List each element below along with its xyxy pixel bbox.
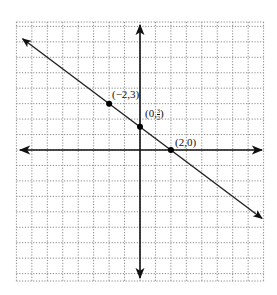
data-point (168, 147, 174, 153)
coordinate-plane (0, 0, 277, 295)
label-suffix: ) (160, 107, 164, 119)
point-label-neg2-3: (−2,3) (112, 89, 139, 100)
label-prefix: (0, (145, 107, 157, 119)
data-point (106, 101, 112, 107)
point-label-y-intercept: (0,32) (145, 108, 164, 121)
data-point (137, 124, 143, 130)
point-label-2-0: (2,0) (175, 137, 196, 148)
